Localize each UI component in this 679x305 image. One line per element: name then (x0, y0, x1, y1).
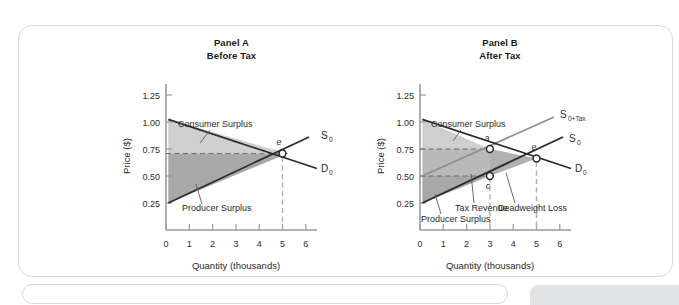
panel-b-point-label-e: e (531, 142, 536, 152)
panel-a-xtick-4: 4 (257, 239, 262, 249)
panel-b-label-s0tax-sub: 0+Tax (568, 115, 586, 122)
panel-b-point-label-c: c (486, 181, 491, 191)
panel-a-plot: 1.25 1.00 0.75 0.50 0.25 0 1 2 3 4 5 6 Q… (99, 26, 384, 278)
panel-a-point-label-e: e (276, 137, 281, 147)
region-producer-surplus (168, 154, 287, 204)
panel-b-xtick-6: 6 (557, 239, 562, 249)
panel-a-equilibrium-point (279, 150, 286, 157)
panel-a-ytick-050: 0.50 (142, 172, 160, 182)
panel-a-ytick-075: 0.75 (142, 145, 160, 155)
panel-a-label-s0-base: S (321, 130, 328, 141)
panel-a-x-axis-title: Quantity (thousands) (192, 260, 280, 271)
panel-b-annotation-deadweight-loss: Deadweight Loss (498, 203, 568, 213)
panel-a-xtick-6: 6 (303, 239, 308, 249)
panel-a-label-d0-base: D (321, 163, 328, 174)
panel-b-ytick-025: 0.25 (396, 199, 414, 209)
panel-b-xtick-0: 0 (417, 239, 422, 249)
panel-a-ytick-025: 0.25 (142, 199, 160, 209)
panel-b-point-a (487, 146, 494, 153)
panel-a-y-axis-title: Price ($) (121, 138, 132, 174)
panel-b-ytick-125: 1.25 (396, 91, 414, 101)
panel-b-xtick-4: 4 (511, 239, 516, 249)
panel-b-label-s0-sub: 0 (577, 139, 581, 146)
panel-b-leader-deadweight (506, 173, 515, 203)
panel-b-y-axis-title: Price ($) (375, 138, 386, 174)
panel-a-x-ticks (166, 224, 306, 230)
panel-a-label-d0-sub: 0 (329, 169, 333, 176)
panel-b-xtick-5: 5 (534, 239, 539, 249)
panel-a-xtick-5: 5 (280, 239, 285, 249)
adjacent-panel-bottom-right (530, 285, 679, 305)
panel-b-label-s0tax-base: S (560, 109, 567, 120)
adjacent-panel-bottom-left (22, 284, 508, 304)
panel-a-xtick-3: 3 (233, 239, 238, 249)
panel-a-ytick-125: 1.25 (142, 91, 160, 101)
panel-b-xtick-3: 3 (487, 239, 492, 249)
panel-b-xtick-2: 2 (464, 239, 469, 249)
panel-a-xtick-0: 0 (163, 239, 168, 249)
panel-b-label-s0-base: S (569, 133, 576, 144)
panel-a-xtick-1: 1 (187, 239, 192, 249)
panel-b-label-d0-base: D (575, 163, 582, 174)
panel-a-annotation-producer-surplus: Producer Surplus (182, 203, 252, 213)
panel-b-x-axis-title: Quantity (thousands) (446, 260, 534, 271)
panel-a: Panel A Before Tax (99, 26, 384, 278)
panel-b-point-label-a: a (484, 133, 489, 143)
panel-b-plot: 1.25 1.00 0.75 0.50 0.25 0 1 2 3 4 5 6 Q… (349, 26, 649, 278)
panel-b-annotation-consumer-surplus: Consumer Surplus (431, 119, 506, 129)
panel-a-annotation-consumer-surplus: Consumer Surplus (178, 119, 253, 129)
panel-b-leader-producer (435, 194, 441, 214)
panel-a-label-s0-sub: 0 (329, 136, 333, 143)
panel-b-ytick-050: 0.50 (396, 172, 414, 182)
panel-a-ytick-100: 1.00 (142, 118, 160, 128)
panel-b-point-c (487, 173, 494, 180)
panel-b-point-e (533, 155, 540, 162)
panel-b-annotation-producer-surplus: Producer Surplus (421, 214, 491, 224)
panel-a-xtick-2: 2 (210, 239, 215, 249)
panel-b-xtick-1: 1 (441, 239, 446, 249)
figure-card: Panel A Before Tax (18, 25, 673, 277)
panel-b-label-d0-sub: 0 (583, 169, 587, 176)
panel-b-ytick-075: 0.75 (396, 145, 414, 155)
panel-b: Panel B After Tax (349, 26, 649, 278)
panel-b-ytick-100: 1.00 (396, 118, 414, 128)
